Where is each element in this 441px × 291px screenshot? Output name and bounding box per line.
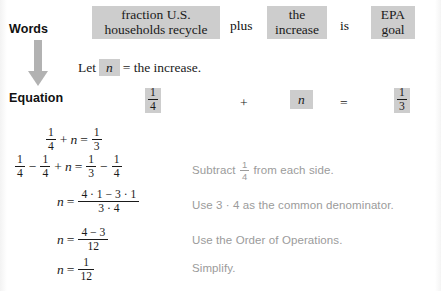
- fraction-numerator: 1: [78, 257, 94, 270]
- fraction-denominator: 4: [112, 167, 122, 179]
- fraction-numerator: 1: [86, 154, 96, 167]
- fraction-one-third: 1 3: [86, 154, 96, 179]
- note-prefix: Subtract: [192, 164, 236, 176]
- note-suffix: from each side.: [254, 164, 334, 176]
- phrase-the-increase: the increase: [267, 6, 327, 39]
- variable-n: n: [57, 262, 64, 277]
- solution-step-3: n= 4 · 1 − 3 · 1 3 · 4: [57, 190, 140, 215]
- equation-left-fraction-highlight: 1 4: [145, 88, 161, 113]
- fraction-numerator: 4 − 3: [78, 227, 108, 240]
- phrase-increase-line-1: the: [289, 7, 306, 22]
- fraction-one-fourth: 1 4: [112, 154, 122, 179]
- fraction-denominator: 3: [92, 140, 102, 152]
- operator-equals: =: [64, 194, 78, 209]
- fraction-one-fourth: 1 4: [240, 160, 249, 181]
- fraction-numerator: 4 · 1 − 3 · 1: [78, 189, 139, 202]
- operator-minus: −: [26, 159, 40, 174]
- fraction-denominator: 12: [78, 270, 94, 282]
- operator-plus: +: [57, 132, 71, 147]
- phrase-epa-goal: EPA goal: [371, 6, 415, 39]
- fraction-numerator: 1: [240, 160, 249, 171]
- fraction-one-fourth: 1 4: [40, 154, 50, 179]
- fraction-one-twelfth: 1 12: [78, 257, 94, 282]
- fraction-denominator: 3: [397, 100, 407, 112]
- equation-variable: n: [290, 92, 313, 108]
- equation-right-fraction-highlight: 1 3: [394, 88, 410, 113]
- operator-plus: +: [51, 159, 65, 174]
- let-variable-box: n: [99, 59, 120, 76]
- operator-equals: =: [64, 262, 78, 277]
- let-variable-statement: Letn= the increase.: [78, 60, 201, 76]
- fraction-numerator: 1: [148, 87, 158, 100]
- fraction-denominator: 4: [240, 171, 249, 181]
- worked-example-panel: Words Equation fraction U.S. households …: [0, 0, 441, 291]
- page-right-edge: [435, 0, 441, 291]
- words-row-label: Words: [9, 22, 48, 36]
- fraction-one-fourth: 1 4: [15, 154, 25, 179]
- let-rest: = the increase.: [123, 60, 201, 75]
- fraction-numerator: 1: [397, 87, 407, 100]
- solution-step-4-note: Use the Order of Operations.: [192, 234, 342, 246]
- phrase-goal-line-2: goal: [381, 22, 404, 37]
- fraction-denominator: 4: [15, 167, 25, 179]
- equation-operator-plus: +: [240, 95, 248, 111]
- operator-equals: =: [64, 232, 78, 247]
- fraction-one-fourth: 1 4: [46, 127, 56, 152]
- fraction-denominator: 4: [40, 167, 50, 179]
- phrase-fraction-line-2: households recycle: [104, 22, 207, 37]
- phrase-fraction-households-recycle: fraction U.S. households recycle: [92, 6, 220, 39]
- solution-step-5: n= 1 12: [57, 258, 95, 283]
- fraction-one-third: 1 3: [92, 127, 102, 152]
- equation-operator-equals: =: [340, 95, 348, 111]
- equation-variable-box: n: [290, 90, 313, 109]
- variable-n: n: [57, 232, 64, 247]
- solution-step-5-note: Simplify.: [192, 262, 236, 274]
- phrase-increase-line-2: increase: [275, 22, 319, 37]
- variable-n: n: [57, 194, 64, 209]
- operator-equals: =: [72, 159, 86, 174]
- fraction-four-minus-three-twelfths: 4 − 3 12: [78, 227, 108, 252]
- solution-step-2-note: Subtract 1 4 from each side.: [192, 161, 334, 182]
- let-keyword: Let: [78, 60, 96, 75]
- fraction-common-denominator: 4 · 1 − 3 · 1 3 · 4: [78, 189, 139, 214]
- operator-minus: −: [97, 159, 111, 174]
- fraction-one-fourth: 1 4: [148, 87, 158, 112]
- fraction-denominator: 3 · 4: [78, 202, 139, 214]
- fraction-denominator: 4: [148, 100, 158, 112]
- page-left-edge: [0, 0, 7, 291]
- variable-n: n: [65, 159, 72, 174]
- words-connector-is: is: [340, 18, 349, 34]
- equation-row-label: Equation: [9, 91, 63, 105]
- fraction-denominator: 12: [78, 240, 108, 252]
- phrase-goal-line-1: EPA: [381, 7, 405, 22]
- fraction-numerator: 1: [46, 127, 56, 140]
- operator-equals: =: [77, 132, 91, 147]
- phrase-fraction-line-1: fraction U.S.: [121, 7, 190, 22]
- fraction-numerator: 1: [92, 127, 102, 140]
- fraction-numerator: 1: [40, 154, 50, 167]
- equation-right-fraction: 1 3: [394, 88, 410, 113]
- solution-step-2: 1 4 − 1 4 +n= 1 3 − 1 4: [14, 155, 123, 180]
- solution-step-1: 1 4 +n= 1 3: [45, 128, 103, 153]
- words-connector-plus: plus: [230, 18, 253, 34]
- solution-step-4: n= 4 − 3 12: [57, 228, 109, 253]
- fraction-numerator: 1: [112, 154, 122, 167]
- fraction-denominator: 3: [86, 167, 96, 179]
- down-arrow-icon: [27, 40, 49, 88]
- fraction-one-third: 1 3: [397, 87, 407, 112]
- fraction-denominator: 4: [46, 140, 56, 152]
- fraction-numerator: 1: [15, 154, 25, 167]
- solution-step-3-note: Use 3 · 4 as the common denominator.: [192, 199, 394, 211]
- equation-left-fraction: 1 4: [145, 88, 161, 113]
